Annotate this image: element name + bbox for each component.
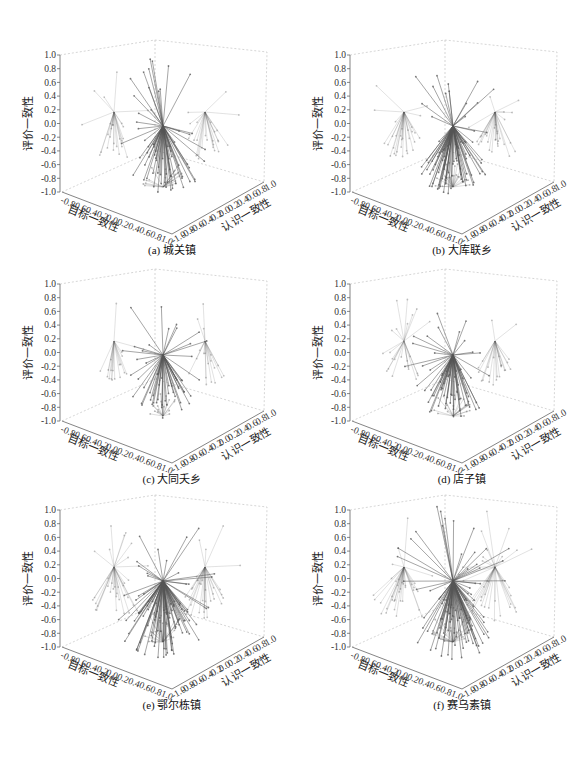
z-tick-label: 1.0 [334, 50, 346, 60]
vector-hub-left-projection [373, 517, 434, 617]
z-tick-label: -0.6 [331, 615, 346, 625]
axes-frame [60, 269, 267, 421]
z-tick-label: -0.6 [41, 389, 56, 399]
z-tick-label: -0.2 [41, 133, 56, 143]
z-tick-label: 0.4 [44, 91, 56, 101]
z-tick-label: -0.2 [331, 133, 346, 143]
z-tick-label: 0.0 [334, 574, 346, 584]
z-tick-label: 0.0 [334, 348, 346, 358]
panel-b: 1.00.80.60.40.20.0-0.2-0.4-0.6-0.8-1.0-0… [311, 40, 568, 257]
figure-3d-vector-plots: 1.00.80.60.40.20.0-0.2-0.4-0.6-0.8-1.0-0… [0, 0, 574, 766]
z-tick-label: 0.6 [44, 533, 56, 543]
panel-e: 1.00.80.60.40.20.0-0.2-0.4-0.6-0.8-1.0-0… [21, 495, 278, 712]
z-tick-label: 0.6 [44, 307, 56, 317]
z-tick-label: 0.2 [334, 334, 346, 344]
axes-frame [60, 40, 267, 192]
z-tick-label: 0.6 [334, 307, 346, 317]
z-tick-label: -0.8 [331, 629, 346, 639]
z-tick-label: -1.0 [331, 642, 346, 652]
z-tick-label: 0.2 [44, 105, 56, 115]
vector-hub-right-projection [188, 303, 225, 385]
caption-panel-b: (b) 大库联乡 [432, 243, 492, 257]
z-tick-label: -0.4 [41, 146, 56, 156]
panels-container: 1.00.80.60.40.20.0-0.2-0.4-0.6-0.8-1.0-0… [21, 40, 568, 712]
caption-panel-a: (a) 城关镇 [148, 243, 196, 257]
z-tick-label: 0.4 [44, 320, 56, 330]
z-axis-label: 评价一致性 [21, 325, 34, 380]
z-tick-label: -0.4 [331, 375, 346, 385]
z-tick-label: 0.6 [334, 78, 346, 88]
panel-c: 1.00.80.60.40.20.0-0.2-0.4-0.6-0.8-1.0-0… [21, 269, 278, 486]
z-tick-label: 0.8 [334, 64, 346, 74]
vector-hub-center [121, 58, 206, 193]
caption-panel-f: (f) 赛乌素镇 [433, 698, 491, 712]
vector-hub-right-projection [184, 525, 241, 619]
z-tick-label: -0.2 [41, 362, 56, 372]
z-tick-label: 0.8 [44, 64, 56, 74]
z-tick-label: -0.8 [41, 174, 56, 184]
z-axis-label: 评价一致性 [21, 551, 34, 606]
z-tick-label: 0.6 [334, 533, 346, 543]
z-tick-label: -0.4 [331, 146, 346, 156]
vector-hub-right-projection [187, 91, 240, 160]
z-axis-label: 评价一致性 [311, 325, 324, 380]
caption-panel-c: (c) 大同夭乡 [143, 472, 202, 486]
z-tick-label: 1.0 [334, 279, 346, 289]
z-tick-label: -0.2 [331, 588, 346, 598]
vector-hub-left-projection [81, 71, 149, 158]
z-tick-label: -0.4 [41, 601, 56, 611]
vector-hub-bottom-projection [142, 166, 182, 187]
z-tick-label: -0.8 [331, 403, 346, 413]
z-tick-label: -1.0 [41, 187, 56, 197]
z-tick-label: 0.2 [334, 105, 346, 115]
z-tick-label: -1.0 [41, 416, 56, 426]
panel-d: 1.00.80.60.40.20.0-0.2-0.4-0.6-0.8-1.0-0… [311, 269, 568, 486]
z-tick-label: -0.8 [331, 174, 346, 184]
z-tick-label: 0.0 [44, 348, 56, 358]
vector-hub-center [404, 313, 490, 418]
axes-frame [350, 40, 557, 192]
z-tick-label: -0.2 [331, 362, 346, 372]
z-tick-label: 1.0 [44, 505, 56, 515]
vector-hub-left-projection [99, 303, 144, 381]
z-tick-label: 0.4 [44, 546, 56, 556]
z-tick-label: 1.0 [44, 279, 56, 289]
z-tick-label: -1.0 [41, 642, 56, 652]
z-tick-label: 0.8 [334, 519, 346, 529]
z-tick-label: -1.0 [331, 416, 346, 426]
z-tick-label: -0.4 [331, 601, 346, 611]
z-tick-label: 0.2 [334, 560, 346, 570]
z-tick-label: 0.4 [334, 91, 346, 101]
vector-hub-right-projection [478, 319, 517, 385]
z-tick-label: 0.0 [44, 574, 56, 584]
z-tick-label: -0.2 [41, 588, 56, 598]
z-tick-label: 0.2 [44, 334, 56, 344]
z-tick-label: -0.4 [41, 375, 56, 385]
z-tick-label: -0.8 [41, 629, 56, 639]
vector-hub-left-projection [374, 85, 428, 158]
vector-hub-center [415, 75, 495, 195]
z-tick-label: 0.6 [44, 78, 56, 88]
z-tick-label: 1.0 [334, 505, 346, 515]
z-tick-label: 0.8 [44, 293, 56, 303]
z-axis-label: 评价一致性 [311, 551, 324, 606]
z-tick-label: -0.6 [41, 160, 56, 170]
z-tick-label: 0.8 [44, 519, 56, 529]
caption-panel-d: (d) 店子镇 [438, 472, 487, 486]
z-tick-label: -0.6 [331, 389, 346, 399]
panel-a: 1.00.80.60.40.20.0-0.2-0.4-0.6-0.8-1.0-0… [21, 40, 278, 257]
z-tick-label: 1.0 [44, 50, 56, 60]
z-tick-label: 0.0 [44, 119, 56, 129]
vector-hub-bottom-projection [144, 612, 180, 643]
z-tick-label: 0.4 [334, 320, 346, 330]
vector-hub-left-projection [382, 299, 431, 380]
z-tick-label: 0.0 [334, 119, 346, 129]
z-tick-label: -1.0 [331, 187, 346, 197]
z-tick-label: -0.6 [331, 160, 346, 170]
z-tick-label: 0.2 [44, 560, 56, 570]
z-tick-label: 0.8 [334, 293, 346, 303]
caption-panel-e: (e) 鄂尔栋镇 [143, 698, 202, 712]
z-tick-label: -0.6 [41, 615, 56, 625]
z-axis-label: 评价一致性 [21, 96, 34, 151]
z-tick-label: 0.4 [334, 546, 346, 556]
